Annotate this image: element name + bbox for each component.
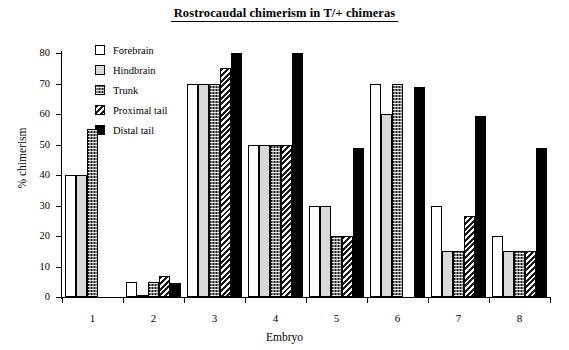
bar-forebrain-embryo-7 [431,206,442,298]
y-axis-tick-label: 0 [10,292,50,302]
bar-trunk-embryo-8 [514,251,525,297]
x-axis-tick-label-embryo-4: 4 [246,312,306,324]
bar-proximal-tail-embryo-3 [220,68,231,297]
y-axis-label: % chimerism [16,103,28,213]
x-axis-tick-label-embryo-2: 2 [124,312,184,324]
bar-trunk-embryo-6 [392,84,403,298]
x-axis-tick-label-embryo-6: 6 [368,312,428,324]
bar-proximal-tail-embryo-7 [464,216,475,297]
bar-hindbrain-embryo-3 [198,84,209,298]
bar-distal-tail-embryo-4 [292,53,303,297]
y-axis-tick-label: 10 [10,262,50,272]
bar-forebrain-embryo-3 [187,84,198,298]
bar-group-embryo-6 [367,53,428,297]
bar-forebrain-embryo-1 [65,175,76,297]
x-axis-tick [306,297,307,303]
bar-distal-tail-embryo-5 [353,148,364,297]
bar-trunk-embryo-1 [87,129,98,297]
bar-distal-tail-embryo-7 [475,116,486,297]
bar-forebrain-embryo-6 [370,84,381,298]
bar-distal-tail-embryo-3 [231,53,242,297]
bar-forebrain-embryo-8 [492,236,503,297]
x-axis-tick-label-embryo-5: 5 [307,312,367,324]
x-axis-label: Embryo [0,331,569,343]
x-axis-tick [489,297,490,303]
bar-group-embryo-2 [123,53,184,297]
bar-group-embryo-5 [306,53,367,297]
bar-distal-tail-embryo-2 [170,283,181,297]
chart-title-text: Rostrocaudal chimerism in T/+ chimeras [171,6,399,22]
bar-proximal-tail-embryo-5 [342,236,353,297]
bar-group-embryo-3 [184,53,245,297]
x-axis-tick [245,297,246,303]
x-axis-tick [428,297,429,303]
bar-hindbrain-embryo-5 [320,206,331,298]
bar-distal-tail-embryo-8 [536,148,547,297]
bar-trunk-embryo-3 [209,84,220,298]
bar-group-embryo-1 [62,53,123,297]
bar-forebrain-embryo-2 [126,282,137,297]
x-axis-tick-label-embryo-1: 1 [63,312,123,324]
x-axis-tick [550,297,551,303]
x-axis-tick [367,297,368,303]
bar-hindbrain-embryo-6 [381,114,392,297]
plot-area [62,53,550,297]
x-axis-tick-label-embryo-8: 8 [490,312,550,324]
bar-group-embryo-7 [428,53,489,297]
bar-hindbrain-embryo-1 [76,175,87,297]
bar-group-embryo-4 [245,53,306,297]
bar-trunk-embryo-2 [148,282,159,297]
bar-proximal-tail-embryo-8 [525,251,536,297]
bar-hindbrain-embryo-2 [137,295,148,297]
x-axis-tick [123,297,124,303]
bar-proximal-tail-embryo-2 [159,276,170,297]
bar-forebrain-embryo-5 [309,206,320,298]
bar-trunk-embryo-4 [270,145,281,298]
bar-distal-tail-embryo-6 [414,87,425,297]
chart-title: Rostrocaudal chimerism in T/+ chimeras [0,6,569,21]
bar-trunk-embryo-5 [331,236,342,297]
x-axis-tick-label-embryo-3: 3 [185,312,245,324]
bar-hindbrain-embryo-8 [503,251,514,297]
bar-hindbrain-embryo-4 [259,145,270,298]
bar-proximal-tail-embryo-4 [281,145,292,298]
bar-group-embryo-8 [489,53,550,297]
bar-forebrain-embryo-4 [248,145,259,298]
y-axis-tick-label: 70 [10,79,50,89]
y-axis-tick-label: 80 [10,48,50,58]
bar-trunk-embryo-7 [453,251,464,297]
x-axis-tick-label-embryo-7: 7 [429,312,489,324]
x-axis-tick [184,297,185,303]
x-axis-tick [62,297,63,303]
y-axis-tick-label: 20 [10,231,50,241]
bar-hindbrain-embryo-7 [442,251,453,297]
